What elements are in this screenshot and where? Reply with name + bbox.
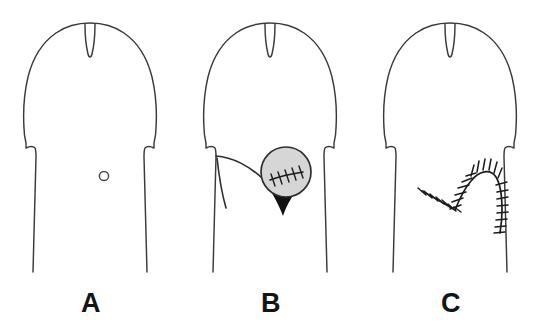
panel-label-c: C bbox=[441, 288, 461, 318]
panel-label-b: B bbox=[261, 288, 281, 318]
figure-canvas: A B bbox=[0, 0, 539, 328]
panel-label-a: A bbox=[81, 288, 101, 318]
figure-root: A B bbox=[0, 0, 539, 328]
